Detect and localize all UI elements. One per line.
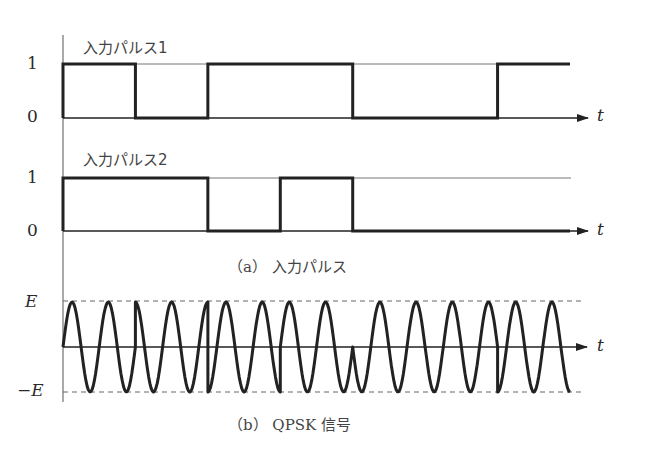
pulse2-y-high-label: 1 xyxy=(27,167,38,187)
pulse2-waveform xyxy=(63,178,570,231)
pulse1-title: 入力パルス1 xyxy=(83,36,168,57)
qpsk-t-label: t xyxy=(597,335,604,355)
caption-a: （a） 入力パルス xyxy=(228,255,347,276)
qpsk-negE-label: −E xyxy=(17,380,44,400)
pulse2-title: 入力パルス2 xyxy=(83,148,168,169)
pulse1-t-label: t xyxy=(597,105,604,125)
pulse1-y-low-label: 0 xyxy=(27,106,38,126)
pulse1-waveform xyxy=(63,64,570,118)
pulse2-t-label: t xyxy=(597,219,604,239)
qpsk-figure xyxy=(0,0,661,466)
pulse2-y-low-label: 0 xyxy=(27,220,38,240)
pulse1-y-high-label: 1 xyxy=(27,53,38,73)
qpsk-E-label: E xyxy=(25,291,37,311)
caption-b: （b） QPSK 信号 xyxy=(228,413,351,434)
